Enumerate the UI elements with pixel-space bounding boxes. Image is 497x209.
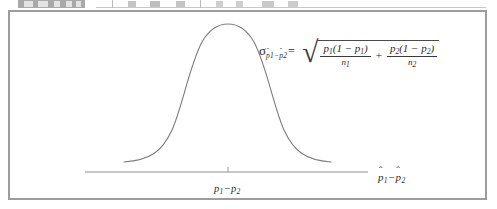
toolbar-divider (96, 7, 486, 8)
hat-accent-2: ˆ (280, 47, 283, 54)
toolbar-strip (0, 0, 497, 9)
toolbar-icon-10[interactable] (236, 1, 243, 7)
axis-p2-index: 2 (401, 176, 405, 185)
toolbar-icon-2[interactable] (38, 1, 48, 7)
standard-error-symbol: σˆp1−ˆp2= (259, 44, 295, 59)
p1-paren-close: ) (364, 42, 368, 54)
radicand: p1(1 − p1) n1 + p2(1 − p2) n2 (317, 40, 439, 70)
toolbar-icon-11[interactable] (262, 1, 274, 7)
n2-index: 2 (412, 60, 416, 69)
center-p2-index: 2 (237, 187, 241, 196)
axis-p-hat-1: ˆp (378, 172, 384, 183)
toolbar-icon-7[interactable] (150, 1, 160, 7)
sigma-subscript: ˆp1−ˆp2 (266, 51, 287, 60)
toolbar-icon-5[interactable] (76, 1, 81, 7)
center-minus: − (224, 183, 231, 194)
standard-error-radical: √ p1(1 − p1) n1 + p2(1 − p2) n2 (302, 36, 439, 70)
statistics-figure: σˆp1−ˆp2= √ p1(1 − p1) n1 + p2(1 − p2) n… (10, 12, 485, 198)
plus-operator: + (371, 50, 387, 61)
x-axis-end-label: ˆp1−ˆp2 (378, 172, 405, 185)
p-hat-2: ˆp (279, 52, 283, 60)
toolbar-icon-12[interactable] (288, 1, 298, 7)
document-frame: σˆp1−ˆp2= √ p1(1 − p1) n1 + p2(1 − p2) n… (8, 10, 487, 200)
toolbar-icon-9[interactable] (216, 1, 223, 7)
fraction-1-denominator: n1 (320, 57, 370, 70)
fraction-2-denominator: n2 (387, 57, 437, 70)
toolbar-separator-1 (112, 0, 113, 8)
fraction-2-numerator: p2(1 − p2) (387, 42, 437, 57)
axis-minus: − (388, 171, 396, 183)
toolbar-icon-6[interactable] (128, 1, 136, 7)
p2-paren-open: (1 − p (399, 42, 427, 54)
x-axis-center-label: p1−p2 (214, 184, 241, 196)
p-hat-1: ˆp (266, 52, 270, 60)
toolbar-icon-1[interactable] (24, 1, 33, 7)
normal-distribution-curve (124, 24, 331, 162)
sigma-glyph: σ (259, 43, 266, 58)
toolbar-icon-8[interactable] (176, 1, 185, 7)
toolbar-icon-3[interactable] (54, 1, 60, 7)
radical-sign: √ (302, 38, 318, 66)
axis-p-hat-2: ˆp (396, 172, 402, 183)
fraction-term-2: p2(1 − p2) n2 (387, 42, 437, 70)
toolbar-icon-4[interactable] (66, 1, 72, 7)
axis-hat-accent-1: ˆ (379, 166, 383, 176)
hat-accent-1: ˆ (267, 47, 270, 54)
n1-index: 1 (346, 60, 350, 69)
sigma-sub-index-2: 2 (283, 51, 287, 60)
equals-sign: = (288, 44, 295, 58)
axis-hat-accent-2: ˆ (397, 166, 401, 176)
toolbar-separator-2 (200, 0, 201, 8)
p1-paren-open: (1 − p (333, 42, 361, 54)
p2-paren-close: ) (431, 42, 435, 54)
fraction-term-1: p1(1 − p1) n1 (320, 42, 370, 70)
fraction-1-numerator: p1(1 − p1) (320, 42, 370, 57)
